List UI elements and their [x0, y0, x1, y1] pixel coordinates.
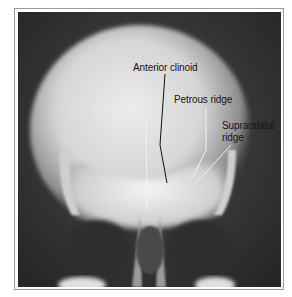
- xray-graphic: [18, 12, 281, 287]
- label-supraorbital: Supraorbital: [222, 120, 275, 131]
- label-supraorbital-ridge: ridge: [222, 132, 244, 143]
- label-anterior-clinoid: Anterior clinoid: [133, 62, 198, 73]
- skull-xray-image: [18, 12, 281, 287]
- label-petrous-ridge: Petrous ridge: [174, 94, 232, 105]
